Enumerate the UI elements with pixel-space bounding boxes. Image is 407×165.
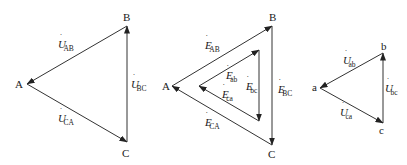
vertex-label-b: b xyxy=(381,40,387,52)
phasor-label-u-ab: U˙ab xyxy=(343,48,356,69)
vertex-label-A: A xyxy=(15,78,23,90)
line-voltage-triangle: U˙BCU˙ABU˙CAABC xyxy=(15,11,146,159)
phasor-arrow-ca xyxy=(27,84,127,142)
inner-phasor-label-ca: E˙ca xyxy=(221,82,234,103)
vertex-label-c: c xyxy=(379,124,384,136)
vertex-label-A: A xyxy=(162,80,170,92)
phasor-label-u-bc: U˙BC xyxy=(131,72,146,93)
vertex-label-B: B xyxy=(123,11,130,23)
phasor-label-u-ab: U˙AB xyxy=(58,32,74,53)
vertex-label-C: C xyxy=(268,148,275,160)
emf-triangles: E˙ABE˙BCE˙CAE˙abE˙bcE˙caABC xyxy=(162,11,292,160)
phasor-arrow-ab xyxy=(27,26,127,84)
phasor-diagram-canvas: U˙BCU˙ABU˙CAABCE˙ABE˙BCE˙CAE˙abE˙bcE˙caA… xyxy=(0,0,407,165)
vertex-label-a: a xyxy=(312,81,317,93)
phasor-arrow-ab xyxy=(320,53,383,88)
inner-phasor-label-bc: E˙bc xyxy=(245,74,258,95)
diagram-layer: U˙BCU˙ABU˙CAABCE˙ABE˙BCE˙CAE˙abE˙bcE˙caA… xyxy=(15,11,398,160)
vertex-label-C: C xyxy=(122,147,129,159)
phasor-label-e-bc: E˙BC xyxy=(277,77,292,98)
phase-voltage-triangle: U˙bcU˙abU˙caabc xyxy=(312,40,398,136)
phasor-label-u-bc: U˙bc xyxy=(385,76,398,97)
phasor-label-e-ab: E˙AB xyxy=(204,33,220,54)
phasor-arrow-ab xyxy=(172,26,272,86)
phasor-label-u-ca: U˙CA xyxy=(58,106,74,127)
vertex-label-B: B xyxy=(269,11,276,23)
